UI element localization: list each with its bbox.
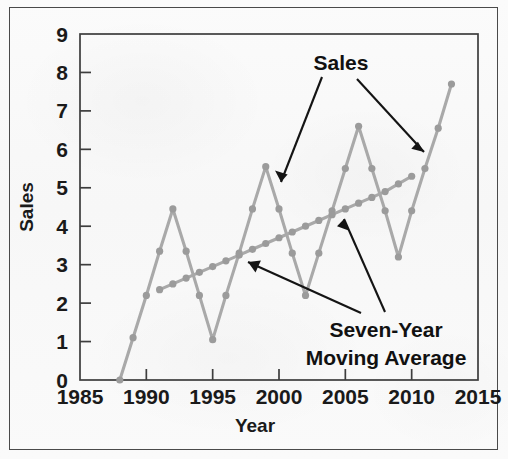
data-point [302, 223, 309, 230]
y-tick-label-5: 5 [56, 176, 68, 199]
sales-annotation-label: Sales [314, 51, 369, 74]
data-point [395, 180, 402, 187]
moving-average-leader-left [248, 262, 361, 313]
data-point [222, 257, 229, 264]
y-tick-label-2: 2 [56, 292, 68, 315]
moving-average-leader-right [344, 219, 385, 312]
data-point [448, 80, 455, 87]
data-point [302, 292, 309, 299]
y-tick-label-8: 8 [56, 61, 68, 84]
data-point [435, 125, 442, 132]
data-point [275, 205, 282, 212]
y-tick-label-9: 9 [56, 23, 68, 46]
y-tick-label-4: 4 [56, 215, 68, 238]
data-point [169, 205, 176, 212]
data-point [408, 173, 415, 180]
y-axis-ticks [80, 72, 91, 341]
data-point [328, 211, 335, 218]
data-point [408, 207, 415, 214]
x-axis-title: Year [235, 415, 276, 436]
y-tick-label-7: 7 [56, 99, 68, 122]
data-point [342, 165, 349, 172]
data-point [156, 286, 163, 293]
x-tick-label-1995: 1995 [189, 385, 236, 408]
data-point [262, 163, 269, 170]
data-point [382, 207, 389, 214]
data-point [368, 194, 375, 201]
x-axis-tick-labels: 1985199019952000200520102015 [57, 385, 502, 408]
data-point [143, 292, 150, 299]
data-point [222, 292, 229, 299]
data-point [355, 123, 362, 130]
sales-leader-right [357, 79, 424, 152]
data-point [395, 253, 402, 260]
x-tick-label-1990: 1990 [123, 385, 170, 408]
sales-line-chart: 0123456789 1985199019952000200520102015 … [0, 0, 508, 459]
data-point [382, 188, 389, 195]
data-point [289, 250, 296, 257]
data-point [262, 240, 269, 247]
y-tick-label-3: 3 [56, 253, 68, 276]
data-point [183, 248, 190, 255]
sales-arrowhead-right [411, 142, 424, 152]
x-tick-label-1985: 1985 [57, 385, 104, 408]
data-point [196, 269, 203, 276]
data-point [209, 263, 216, 270]
data-point [315, 250, 322, 257]
figure-container: 0123456789 1985199019952000200520102015 … [0, 0, 508, 459]
y-axis-title: Sales [16, 182, 37, 232]
x-tick-label-2000: 2000 [256, 385, 303, 408]
data-point [275, 234, 282, 241]
data-point [249, 205, 256, 212]
y-tick-label-1: 1 [56, 330, 68, 353]
data-point [368, 165, 375, 172]
y-tick-label-6: 6 [56, 138, 68, 161]
data-point [342, 205, 349, 212]
data-point [129, 334, 136, 341]
data-point [196, 292, 203, 299]
data-point [116, 376, 123, 383]
data-point [355, 200, 362, 207]
x-tick-label-2015: 2015 [455, 385, 502, 408]
data-point [236, 251, 243, 258]
data-point [249, 246, 256, 253]
data-point [156, 248, 163, 255]
data-point [315, 217, 322, 224]
sales-leader-left [281, 77, 322, 182]
data-point [289, 228, 296, 235]
data-point [421, 165, 428, 172]
x-tick-label-2005: 2005 [322, 385, 369, 408]
y-axis-tick-labels: 0123456789 [56, 23, 68, 392]
x-tick-label-2010: 2010 [388, 385, 435, 408]
moving-average-annotation-label-line2: Moving Average [306, 346, 467, 369]
x-axis-ticks [146, 369, 411, 380]
data-point [169, 280, 176, 287]
data-point [183, 275, 190, 282]
data-point [209, 336, 216, 343]
moving-average-annotation-label-line1: Seven-Year [329, 318, 442, 341]
